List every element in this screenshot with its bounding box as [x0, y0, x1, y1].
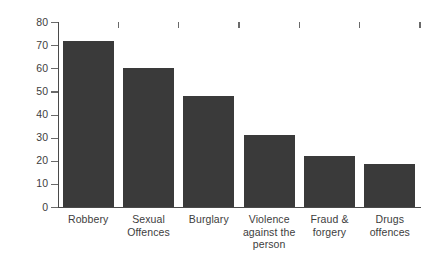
y-axis-tick-label: 20: [18, 155, 48, 166]
y-axis-tick: [51, 138, 58, 139]
y-axis-tick: [51, 161, 58, 162]
y-axis-tick: [51, 45, 58, 46]
x-axis-tick: [238, 22, 239, 28]
y-axis-tick: [51, 115, 58, 116]
bar: [304, 156, 355, 207]
y-axis-tick: [51, 68, 58, 69]
bar: [364, 164, 415, 207]
x-axis-tick: [419, 22, 420, 28]
x-axis-tick: [299, 22, 300, 28]
x-axis-tick: [118, 22, 119, 28]
y-axis-tick: [51, 184, 58, 185]
y-axis-tick-label: 50: [18, 86, 48, 97]
plot-area: 01020304050607080: [58, 22, 420, 207]
bar-chart-screenshot: Percentage 01020304050607080 RobberySexu…: [0, 0, 446, 266]
y-axis-tick-label: 80: [18, 17, 48, 28]
bar: [183, 96, 234, 207]
bar: [63, 41, 114, 208]
bar: [123, 68, 174, 207]
y-axis-tick-label: 40: [18, 109, 48, 120]
y-axis-tick-label: 70: [18, 40, 48, 51]
bar: [244, 135, 295, 207]
x-axis-label: Drugsoffences: [354, 213, 426, 238]
y-axis-tick-label: 0: [18, 202, 48, 213]
x-axis-tick: [359, 22, 360, 28]
x-axis-label-line: person: [233, 238, 305, 251]
x-axis-tick: [178, 22, 179, 28]
y-axis-tick: [51, 207, 58, 208]
y-axis-tick: [51, 22, 58, 23]
x-axis-label-line: offences: [354, 226, 426, 239]
y-axis-tick: [51, 91, 58, 92]
y-axis-tick-label: 30: [18, 132, 48, 143]
x-axis-label-line: Offences: [112, 226, 184, 239]
y-axis-tick-label: 60: [18, 63, 48, 74]
x-axis-label-line: Drugs: [354, 213, 426, 226]
y-axis-tick-label: 10: [18, 178, 48, 189]
